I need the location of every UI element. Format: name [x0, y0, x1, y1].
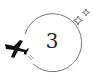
airplane-icon	[5, 40, 34, 60]
badge-number: 3	[44, 29, 60, 53]
sparkle-icon	[74, 9, 90, 25]
